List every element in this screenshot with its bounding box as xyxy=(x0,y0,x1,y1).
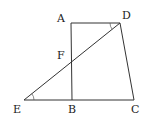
geometry-diagram: A D F E B C xyxy=(0,0,155,118)
label-c: C xyxy=(131,103,139,116)
segment-dc xyxy=(120,23,134,100)
label-a: A xyxy=(56,12,66,25)
angle-mark-e xyxy=(32,94,34,100)
label-f: F xyxy=(57,49,65,62)
label-d: D xyxy=(122,9,131,22)
angle-mark-d xyxy=(110,23,112,29)
label-e: E xyxy=(13,103,21,116)
label-b: B xyxy=(68,103,76,116)
